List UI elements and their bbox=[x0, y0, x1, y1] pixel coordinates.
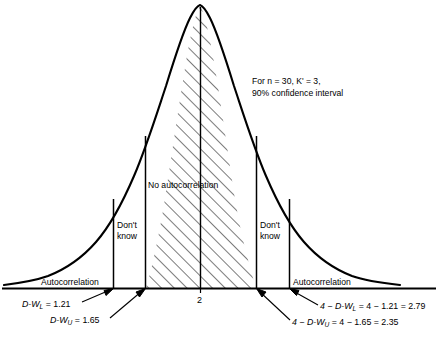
annotation-dwu: D-WU = 1.65 bbox=[50, 315, 100, 326]
note-line-2: 90% confidence interval bbox=[252, 88, 343, 98]
axis-tick-label-2: 2 bbox=[197, 295, 202, 305]
label-autocorrelation-right: Autocorrelation bbox=[293, 277, 351, 287]
annotation-4-minus-dwu-prefix: 4 − D-W bbox=[292, 317, 325, 327]
annotation-dwu-value: = 1.65 bbox=[72, 315, 99, 325]
label-dont-know-right-line2: know bbox=[260, 231, 281, 241]
annotation-4-minus-dwl-value: = 4 − 1.21 = 2.79 bbox=[356, 301, 425, 311]
figure-canvas: For n = 30, K' = 3, 90% confidence inter… bbox=[0, 0, 438, 337]
note-line-1: For n = 30, K' = 3, bbox=[252, 76, 321, 86]
annotation-dwl-prefix: D-W bbox=[22, 299, 40, 309]
label-no-autocorrelation: No autocorrelation bbox=[148, 180, 218, 190]
leader-dwu bbox=[110, 291, 142, 318]
annotation-dwl: D-WL = 1.21 bbox=[22, 299, 71, 310]
annotation-dwl-value: = 1.21 bbox=[43, 299, 70, 309]
annotation-dwu-prefix: D-W bbox=[50, 315, 68, 325]
annotation-4-minus-dwu: 4 − D-WU = 4 − 1.65 = 2.35 bbox=[292, 317, 399, 328]
label-dont-know-left-line1: Don't bbox=[117, 220, 137, 230]
arrowhead-dwu bbox=[136, 289, 146, 298]
leader-4-minus-dwu bbox=[260, 292, 290, 320]
annotation-4-minus-dwl: 4 − D-WL = 4 − 1.21 = 2.79 bbox=[320, 301, 426, 312]
durbin-watson-figure: For n = 30, K' = 3, 90% confidence inter… bbox=[0, 0, 438, 337]
annotation-4-minus-dwu-value: = 4 − 1.65 = 2.35 bbox=[329, 317, 398, 327]
annotation-4-minus-dwl-prefix: 4 − D-W bbox=[320, 301, 353, 311]
label-autocorrelation-left: Autocorrelation bbox=[41, 277, 99, 287]
label-dont-know-right-line1: Don't bbox=[260, 220, 280, 230]
label-dont-know-left-line2: know bbox=[117, 231, 138, 241]
